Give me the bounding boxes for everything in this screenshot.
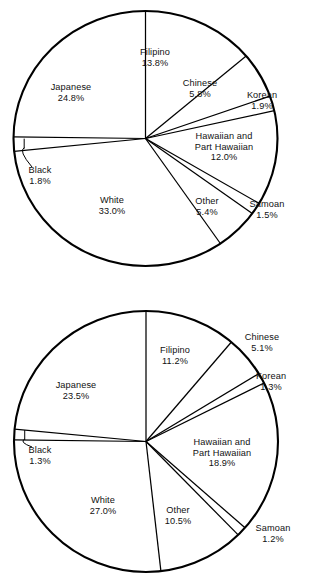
pie-slice-label-hawaiian-and-part-hawaiian: Hawaiian andPart Hawaiian12.0% [164, 131, 284, 163]
pie-slice-label-korean: Korean1.9% [202, 90, 316, 111]
pie-chart-2: Filipino11.2%Chinese5.1%Korean1.3%Hawaii… [0, 290, 316, 583]
pie-slice-percent: 1.3% [211, 382, 316, 393]
pie-slice-name-line: Part Hawaiian [164, 142, 284, 153]
pie-slice-label-white: White33.0% [52, 195, 172, 216]
pie-slice-percent: 5.1% [202, 343, 316, 354]
pie-slice-percent: 11.2% [115, 356, 235, 367]
pie-slice-name-line: Japanese [16, 380, 136, 391]
pie-slice-name-line: Japanese [11, 82, 131, 93]
pie-chart-1: Filipino13.8%Chinese5.8%Korean1.9%Hawaii… [0, 0, 316, 290]
pie-slice-name-line: Hawaiian and [162, 437, 282, 448]
pie-slice-label-white: White27.0% [43, 495, 163, 516]
pie-slice-label-hawaiian-and-part-hawaiian: Hawaiian andPart Hawaiian18.9% [162, 437, 282, 469]
pie-slice-name-line: White [52, 195, 172, 206]
pie-slice-percent: 27.0% [43, 506, 163, 517]
pie-slice-percent: 24.8% [11, 93, 131, 104]
pie-slice-label-filipino: Filipino13.8% [95, 47, 215, 68]
pie-slice-name-line: Korean [202, 90, 316, 101]
pie-slice-label-black: Black1.8% [0, 165, 100, 186]
pie-slice-name-line: Hawaiian and [164, 131, 284, 142]
pie-slice-percent: 1.8% [0, 176, 100, 187]
pie-slice-percent: 18.9% [162, 458, 282, 469]
pie-slice-label-korean: Korean1.3% [211, 371, 316, 392]
pie-slice-label-japanese: Japanese24.8% [11, 82, 131, 103]
pie-slice-percent: 1.9% [202, 101, 316, 112]
pie-slice-percent: 1.2% [213, 534, 316, 545]
pie-slice-name-line: Chinese [140, 78, 260, 89]
pie-slice-label-black: Black1.3% [0, 445, 100, 466]
pie-slice-percent: 13.8% [95, 58, 215, 69]
pie-slice-name-line: Korean [211, 371, 316, 382]
pie-slice-percent: 1.3% [0, 456, 100, 467]
pie-slice-percent: 10.5% [118, 516, 238, 527]
pie-slice-percent: 12.0% [164, 152, 284, 163]
pie-slice-percent: 33.0% [52, 206, 172, 217]
pie-slice-name-line: Black [0, 165, 100, 176]
pie-slice-name-line: Black [0, 445, 100, 456]
pie-slice-name-line: Part Hawaiian [162, 448, 282, 459]
pie-slice-label-chinese: Chinese5.1% [202, 332, 316, 353]
pie-slice-name-line: Chinese [202, 332, 316, 343]
pie-slice-name-line: Filipino [95, 47, 215, 58]
pie-slice-name-line: White [43, 495, 163, 506]
pie-slice-label-japanese: Japanese23.5% [16, 380, 136, 401]
pie-slice-percent: 23.5% [16, 391, 136, 402]
